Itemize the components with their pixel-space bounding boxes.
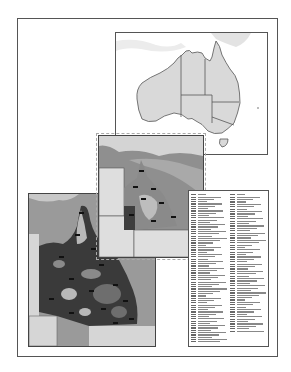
legend-entry bbox=[230, 330, 266, 332]
legend-column-right bbox=[230, 194, 266, 343]
map-legend bbox=[188, 190, 269, 347]
legend-entry bbox=[191, 341, 227, 343]
legend-column-left bbox=[191, 194, 227, 343]
